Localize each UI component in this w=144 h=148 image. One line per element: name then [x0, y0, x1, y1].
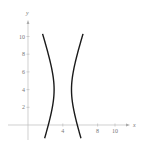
- hyperbola-chart: x y 4810246810: [0, 0, 144, 148]
- y-tick-label: 2: [22, 104, 25, 110]
- left-branch-curve: [43, 34, 55, 138]
- x-axis-arrow-icon: [126, 124, 130, 127]
- ticks: 4810246810: [19, 34, 118, 135]
- x-tick-label: 10: [112, 128, 118, 134]
- y-tick-label: 10: [19, 34, 25, 40]
- y-tick-label: 6: [22, 69, 25, 75]
- y-axis-label: y: [25, 10, 29, 16]
- y-tick-label: 4: [22, 87, 25, 93]
- y-axis-arrow-icon: [27, 20, 30, 24]
- y-tick-label: 8: [22, 51, 25, 57]
- x-axis-label: x: [132, 122, 136, 128]
- x-tick-label: 8: [96, 128, 99, 134]
- x-tick-label: 4: [61, 128, 64, 134]
- right-branch-curve: [72, 34, 84, 138]
